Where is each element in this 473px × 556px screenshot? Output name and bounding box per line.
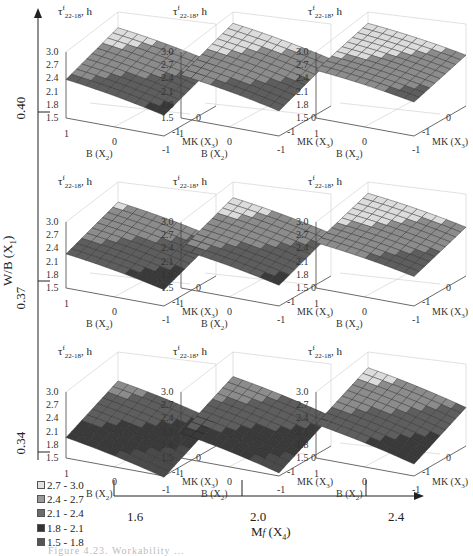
x-tick: -1: [412, 144, 420, 155]
z-tick: 3.0: [46, 386, 59, 397]
z-tick: 2.4: [296, 242, 309, 253]
outer-y-tick-040: 0.40: [13, 97, 29, 120]
b-axis-label: B (X2): [201, 488, 228, 502]
z-tick: 2.7: [296, 399, 309, 410]
z-tick: 2.4: [296, 412, 309, 423]
z-tick: 2.1: [161, 256, 174, 267]
x-tick: 1: [64, 298, 69, 309]
y-tick: -1: [422, 126, 430, 137]
mk-axis-label: MK (X3): [432, 476, 468, 490]
z-axis-title: τf22-18, h: [173, 4, 207, 20]
x-tick: 1: [314, 298, 319, 309]
z-tick: 2.4: [161, 72, 174, 83]
z-tick: 3.0: [161, 216, 174, 227]
y-tick: 0: [446, 452, 451, 463]
z-tick: 2.4: [296, 72, 309, 83]
z-tick: 2.4: [46, 412, 59, 423]
z-tick: 1.5: [296, 282, 309, 293]
z-tick: 1.5: [46, 452, 59, 463]
z-tick: 2.4: [46, 242, 59, 253]
x-tick: 0: [362, 136, 367, 147]
x-tick: 1: [179, 298, 184, 309]
x-tick: 0: [227, 306, 232, 317]
z-tick: 1.5: [296, 452, 309, 463]
x-tick: 0: [112, 476, 117, 487]
y-tick: 0: [446, 112, 451, 123]
z-tick: 1.5: [46, 112, 59, 123]
z-axis-title: τf22-18, h: [58, 344, 92, 360]
z-tick: 1.5: [296, 112, 309, 123]
z-tick: 2.1: [296, 86, 309, 97]
x-tick: -1: [277, 144, 285, 155]
b-axis-label: B (X2): [336, 318, 363, 332]
z-tick: 2.7: [161, 59, 174, 70]
z-tick: 1.5: [46, 282, 59, 293]
z-tick: 2.1: [46, 86, 59, 97]
x-tick: 1: [64, 468, 69, 479]
z-tick: 2.1: [296, 256, 309, 267]
outer-x-label: Mf (X4): [251, 524, 291, 542]
z-tick: 1.8: [46, 99, 59, 110]
surface-panel: τf22-18, h3.02.72.42.11.81.510-1-10B (X2…: [155, 2, 295, 152]
z-tick: 2.4: [161, 412, 174, 423]
z-axis-title: τf22-18, h: [173, 174, 207, 190]
z-tick: 2.7: [296, 229, 309, 240]
z-axis-title: τf22-18, h: [308, 4, 342, 20]
b-axis-label: B (X2): [201, 318, 228, 332]
z-tick: 2.7: [161, 229, 174, 240]
z-tick: 2.1: [296, 426, 309, 437]
z-tick: 1.5: [161, 282, 174, 293]
outer-y-tick-037: 0.37: [13, 287, 29, 310]
outer-y-label: W/B (X1): [0, 236, 18, 286]
z-tick: 3.0: [161, 46, 174, 57]
z-tick: 2.4: [46, 72, 59, 83]
z-tick: 3.0: [46, 46, 59, 57]
z-tick: 1.8: [296, 439, 309, 450]
z-tick: 1.5: [161, 452, 174, 463]
x-tick: 0: [362, 306, 367, 317]
z-tick: 1.8: [161, 99, 174, 110]
x-tick: 1: [179, 468, 184, 479]
b-axis-label: B (X2): [86, 318, 113, 332]
z-tick: 2.7: [161, 399, 174, 410]
x-tick: 1: [314, 468, 319, 479]
z-axis-title: τf22-18, h: [58, 174, 92, 190]
z-tick: 2.4: [161, 242, 174, 253]
x-tick: 1: [314, 128, 319, 139]
z-tick: 3.0: [46, 216, 59, 227]
surface-panel: τf22-18, h3.02.72.42.11.81.510-1-10B (X2…: [290, 342, 430, 492]
x-tick: -1: [412, 484, 420, 495]
x-tick: -1: [412, 314, 420, 325]
legend-item: 1.8 - 2.1: [37, 521, 84, 535]
x-tick: 0: [112, 306, 117, 317]
z-tick: 2.1: [161, 86, 174, 97]
z-tick: 1.8: [296, 269, 309, 280]
z-axis-title: τf22-18, h: [58, 4, 92, 20]
z-tick: 1.8: [296, 99, 309, 110]
b-axis-label: B (X2): [336, 148, 363, 162]
x-tick: 0: [227, 136, 232, 147]
z-tick: 1.8: [161, 269, 174, 280]
x-tick: 1: [64, 128, 69, 139]
outer-y-tick-034: 0.34: [13, 432, 29, 455]
z-tick: 2.1: [46, 256, 59, 267]
b-axis-label: B (X2): [201, 148, 228, 162]
z-tick: 1.8: [46, 269, 59, 280]
x-tick: 0: [362, 476, 367, 487]
z-tick: 2.7: [46, 229, 59, 240]
figure-caption: Figure 4.23. Workability ...: [48, 545, 184, 556]
b-axis-label: B (X2): [86, 148, 113, 162]
z-axis-title: τf22-18, h: [308, 344, 342, 360]
z-tick: 1.5: [161, 112, 174, 123]
z-tick: 1.8: [161, 439, 174, 450]
b-axis-label: B (X2): [336, 488, 363, 502]
x-tick: 0: [227, 476, 232, 487]
x-tick: -1: [277, 314, 285, 325]
x-tick: -1: [277, 484, 285, 495]
z-tick: 3.0: [296, 386, 309, 397]
surface-panel: τf22-18, h3.02.72.42.11.81.510-1-10B (X2…: [290, 2, 430, 152]
x-tick: 0: [112, 136, 117, 147]
z-tick: 2.7: [296, 59, 309, 70]
mk-axis-label: MK (X3): [432, 136, 468, 150]
z-axis-title: τf22-18, h: [173, 344, 207, 360]
